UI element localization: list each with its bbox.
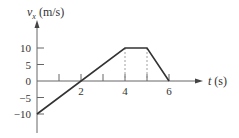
svg-text:4: 4 (122, 85, 128, 97)
y-axis-arrow-icon (35, 20, 40, 28)
svg-text:−5: −5 (19, 92, 31, 104)
svg-text:−10: −10 (14, 108, 32, 120)
x-axis (37, 79, 203, 84)
y-tick-labels: 10 5 0 −5 −10 (14, 42, 32, 120)
svg-text:0: 0 (26, 75, 32, 87)
y-axis-label: vx (m/s) (27, 5, 64, 21)
x-axis-arrow-icon (195, 79, 203, 84)
y-axis (35, 20, 40, 133)
dashed-guides (125, 48, 147, 81)
svg-text:10: 10 (20, 42, 32, 54)
svg-text:6: 6 (166, 85, 172, 97)
x-tick-labels: 2 4 6 (78, 85, 172, 97)
svg-text:2: 2 (78, 85, 84, 97)
velocity-time-chart: vx (m/s) t (s) 10 5 0 −5 −10 2 4 (0, 0, 239, 138)
x-axis-label: t (s) (208, 74, 227, 88)
x-ticks (59, 74, 169, 81)
svg-text:5: 5 (26, 59, 32, 71)
